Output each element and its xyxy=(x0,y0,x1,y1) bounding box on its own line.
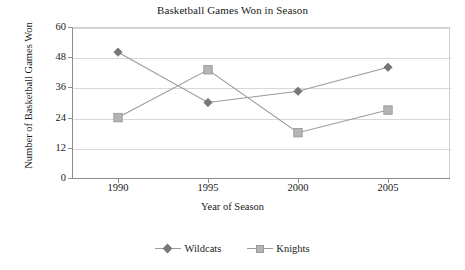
y-tick-label-60: 60 xyxy=(36,22,66,32)
y-tick-label-12: 12 xyxy=(36,143,66,153)
legend-entry-knights[interactable]: Knights xyxy=(247,243,309,254)
chart-container: Basketball Games Won in Season Number of… xyxy=(0,0,465,270)
legend-label-wildcats: Wildcats xyxy=(184,243,221,254)
x-axis-line xyxy=(72,178,450,179)
data-series-layer xyxy=(72,27,450,178)
series-knights xyxy=(114,66,392,137)
diamond-marker-icon xyxy=(155,244,181,254)
chart-title: Basketball Games Won in Season xyxy=(0,4,465,16)
data-point-wildcats-2000[interactable] xyxy=(294,87,302,95)
legend-entry-wildcats[interactable]: Wildcats xyxy=(155,243,221,254)
data-point-knights-2005[interactable] xyxy=(384,106,392,114)
y-tick-label-48: 48 xyxy=(36,52,66,62)
y-axis-title: Number of Basketball Games Won xyxy=(23,0,34,196)
data-point-knights-1990[interactable] xyxy=(114,113,122,121)
data-point-knights-2000[interactable] xyxy=(294,129,302,137)
y-tick-mark-0 xyxy=(68,178,72,179)
data-point-wildcats-1990[interactable] xyxy=(114,48,122,56)
chart-legend: Wildcats Knights xyxy=(0,243,465,254)
data-point-knights-1995[interactable] xyxy=(204,66,212,74)
x-axis-title: Year of Season xyxy=(0,201,465,212)
series-line-wildcats xyxy=(118,52,388,102)
x-tick-label-1995: 1995 xyxy=(178,182,238,193)
data-point-wildcats-2005[interactable] xyxy=(384,63,392,71)
y-tick-label-24: 24 xyxy=(36,113,66,123)
x-tick-label-2000: 2000 xyxy=(268,182,328,193)
data-point-wildcats-1995[interactable] xyxy=(204,98,212,106)
square-marker-icon xyxy=(247,244,273,254)
legend-label-knights: Knights xyxy=(276,243,309,254)
x-tick-label-1990: 1990 xyxy=(88,182,148,193)
x-tick-label-2005: 2005 xyxy=(358,182,418,193)
y-tick-label-36: 36 xyxy=(36,82,66,92)
series-line-knights xyxy=(118,70,388,133)
y-tick-label-0: 0 xyxy=(36,173,66,183)
